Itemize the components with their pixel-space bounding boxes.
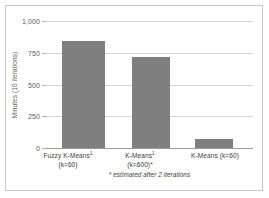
x-tick-label-1-superscript: 1 <box>152 151 155 156</box>
tick-mark-750 <box>42 53 46 54</box>
x-tick-label-2: K-Means (k=60) <box>175 152 255 161</box>
bar-k-means-k60[interactable] <box>195 139 233 148</box>
x-tick-label-0-line1: Fuzzy K-Means <box>43 152 89 159</box>
plot-area: 1,000 750 500 250 0 <box>46 21 253 148</box>
y-tick-label-250: 250 <box>28 113 40 120</box>
tick-mark-1000 <box>42 21 46 22</box>
y-axis-title: Minutes (10 iterations) <box>11 0 21 24</box>
bar-k-means-k600[interactable] <box>132 57 170 148</box>
x-tick-label-1: K-Means1 (k=600)* <box>110 152 170 169</box>
x-tick-label-0: Fuzzy K-Means1 (k=60) <box>38 152 98 169</box>
y-axis-title-text: Minutes (10 iterations) <box>11 24 18 146</box>
bar-fuzzy-k-means-k60[interactable] <box>62 41 105 148</box>
y-tick-label-1000: 1,000 <box>22 18 40 25</box>
chart-figure: Minutes (10 iterations) 1,000 750 500 25… <box>0 0 269 198</box>
x-tick-label-0-superscript: 1 <box>90 151 93 156</box>
x-tick-label-2-line1: K-Means (k=60) <box>191 152 239 159</box>
chart-footnote: * estimated after 2 iterations <box>46 171 253 178</box>
y-tick-label-500: 500 <box>28 81 40 88</box>
x-tick-label-1-line2: (k=600)* <box>127 161 153 168</box>
x-axis-line <box>46 148 253 149</box>
x-tick-label-1-line1: K-Means <box>125 152 152 159</box>
y-tick-label-0: 0 <box>36 145 40 152</box>
y-tick-label-750: 750 <box>28 49 40 56</box>
tick-mark-0 <box>42 148 46 149</box>
x-tick-label-0-line2: (k=60) <box>58 161 77 168</box>
tick-mark-250 <box>42 116 46 117</box>
tick-mark-500 <box>42 85 46 86</box>
gridline-1000 <box>46 21 253 22</box>
